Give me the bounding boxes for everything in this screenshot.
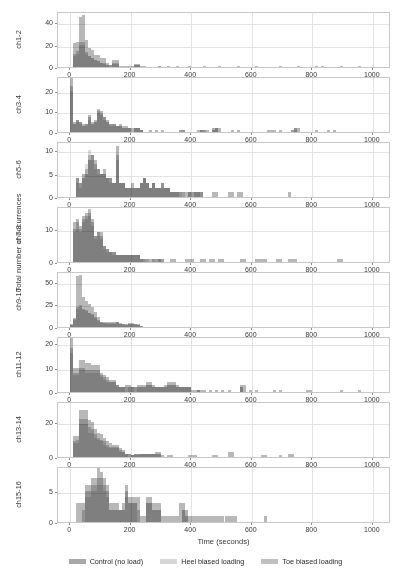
- histogram-bar: [243, 385, 246, 392]
- y-tick-mark: [55, 393, 57, 394]
- x-tick-mark: [69, 523, 70, 525]
- histogram-bar: [297, 128, 300, 132]
- x-tick-mark: [251, 68, 252, 70]
- panel-ch7-8: ch7-801002004006008001000: [0, 207, 411, 281]
- histogram-bar: [209, 390, 212, 392]
- histogram-bar: [255, 390, 258, 392]
- histogram-bar: [152, 259, 155, 262]
- histogram-bar: [264, 455, 267, 457]
- x-tick-label: 400: [175, 526, 205, 533]
- x-tick-label: 800: [296, 526, 326, 533]
- y-tick-label: 25: [31, 301, 53, 308]
- histogram-bar: [146, 259, 149, 262]
- y-tick-label: 0: [31, 389, 53, 396]
- x-tick-mark: [372, 458, 373, 460]
- histogram-figure: Total number of occurrences ch1-20204002…: [0, 0, 411, 583]
- y-tick-mark: [55, 112, 57, 113]
- x-tick-mark: [372, 393, 373, 395]
- x-tick-mark: [311, 523, 312, 525]
- y-tick-mark: [55, 92, 57, 93]
- y-tick-label: 0: [31, 519, 53, 526]
- y-tick-mark: [55, 283, 57, 284]
- bars-ch3-4: [58, 78, 389, 132]
- histogram-bar: [279, 66, 282, 67]
- histogram-bar: [243, 259, 246, 262]
- y-tick-label: 40: [31, 19, 53, 26]
- x-tick-mark: [130, 133, 131, 135]
- x-tick-mark: [69, 68, 70, 70]
- y-tick-label: 0: [31, 64, 53, 71]
- histogram-bar: [158, 454, 161, 458]
- histogram-bar: [221, 390, 224, 392]
- plot-area-ch9-10: [57, 272, 390, 328]
- histogram-bar: [158, 66, 161, 67]
- histogram-bar: [288, 192, 291, 197]
- x-tick-mark: [372, 68, 373, 70]
- histogram-bar: [191, 259, 194, 262]
- histogram-bar: [340, 259, 343, 262]
- x-tick-mark: [130, 458, 131, 460]
- histogram-bar: [212, 259, 215, 262]
- x-tick-label: 200: [115, 526, 145, 533]
- histogram-bar: [179, 192, 182, 197]
- bars-ch1-2: [58, 13, 389, 67]
- plot-area-ch11-12: [57, 337, 390, 393]
- x-tick-mark: [251, 133, 252, 135]
- x-tick-mark: [251, 458, 252, 460]
- plot-area-ch15-16: [57, 467, 390, 523]
- bars-ch5-6: [58, 143, 389, 197]
- y-tick-mark: [55, 46, 57, 47]
- panel-ch15-16: ch15-160502004006008001000: [0, 467, 411, 541]
- histogram-bar: [321, 66, 324, 67]
- histogram-bar: [197, 390, 200, 392]
- histogram-bar: [161, 259, 164, 262]
- histogram-bar: [237, 130, 240, 132]
- legend-item-3: Toe biased loading: [261, 557, 342, 566]
- plot-area-ch13-14: [57, 402, 390, 458]
- histogram-bar: [158, 259, 161, 262]
- y-tick-label: 20: [31, 88, 53, 95]
- bars-ch9-10: [58, 273, 389, 327]
- histogram-bar: [279, 130, 282, 132]
- histogram-bar: [327, 130, 330, 132]
- x-tick-mark: [130, 393, 131, 395]
- histogram-bar: [218, 128, 221, 132]
- histogram-bar: [279, 455, 282, 457]
- legend-item-1: Control (no load): [69, 557, 144, 566]
- y-tick-label: 0: [31, 129, 53, 136]
- y-tick-mark: [55, 369, 57, 370]
- histogram-bar: [140, 326, 143, 327]
- x-tick-mark: [190, 263, 191, 265]
- y-tick-label: 50: [31, 279, 53, 286]
- x-tick-mark: [69, 393, 70, 395]
- y-tick-mark: [55, 458, 57, 459]
- histogram-bar: [188, 66, 191, 67]
- x-tick-mark: [251, 263, 252, 265]
- histogram-bar: [137, 510, 140, 522]
- histogram-bar: [273, 390, 276, 392]
- panel-ch11-12: ch11-120102002004006008001000: [0, 337, 411, 411]
- histogram-bar: [228, 390, 231, 392]
- histogram-bar: [234, 516, 237, 522]
- y-tick-label: 0: [31, 194, 53, 201]
- histogram-bar: [340, 66, 343, 67]
- y-tick-label: 0: [31, 324, 53, 331]
- histogram-bar: [231, 452, 234, 457]
- histogram-bar: [215, 455, 218, 457]
- histogram-bar: [185, 510, 188, 522]
- y-tick-mark: [55, 305, 57, 306]
- histogram-bar: [203, 259, 206, 262]
- x-tick-mark: [311, 458, 312, 460]
- histogram-bar: [279, 259, 282, 262]
- legend-label: Toe biased loading: [282, 557, 342, 566]
- x-tick-mark: [311, 393, 312, 395]
- x-tick-mark: [130, 523, 131, 525]
- y-tick-mark: [55, 230, 57, 231]
- x-tick-mark: [251, 328, 252, 330]
- x-tick-mark: [190, 328, 191, 330]
- y-tick-mark: [55, 151, 57, 152]
- histogram-bar: [255, 66, 258, 67]
- y-tick-label: 5: [31, 488, 53, 495]
- plot-area-ch3-4: [57, 77, 390, 133]
- y-tick-label: 5: [31, 171, 53, 178]
